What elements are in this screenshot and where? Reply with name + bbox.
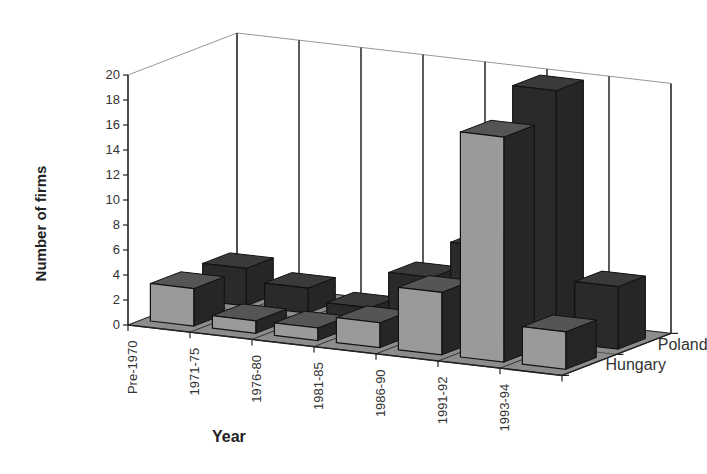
legend-hungary: Hungary xyxy=(605,356,665,373)
y-tick-label: 20 xyxy=(106,67,120,82)
x-tick-label: 1993-94 xyxy=(497,384,512,432)
x-tick-label: 1986-90 xyxy=(373,369,388,417)
y-axis-label: Number of firms xyxy=(32,124,49,324)
y-tick-label: 10 xyxy=(106,192,120,207)
bar-poland-1 xyxy=(265,273,336,314)
chart-canvas: 02468101214161820Pre-19701971-751976-801… xyxy=(0,0,707,474)
y-tick-label: 18 xyxy=(106,92,120,107)
y-tick-label: 14 xyxy=(106,142,120,157)
x-tick-label: 1971-75 xyxy=(187,348,202,396)
x-tick-label: 1976-80 xyxy=(249,355,264,403)
y-tick-label: 6 xyxy=(113,242,120,257)
x-axis-label: Year xyxy=(212,428,246,446)
x-tick-label: 1991-92 xyxy=(435,377,450,425)
y-axis: 02468101214161820 xyxy=(106,67,128,332)
y-tick-label: 0 xyxy=(113,317,120,332)
y-tick-label: 12 xyxy=(106,167,120,182)
y-tick-label: 4 xyxy=(113,267,120,282)
y-tick-label: 16 xyxy=(106,117,120,132)
legend-poland: Poland xyxy=(658,336,707,353)
bar-hungary-6 xyxy=(522,315,596,369)
y-tick-label: 2 xyxy=(113,292,120,307)
x-tick-label: Pre-1970 xyxy=(125,341,140,394)
y-tick-label: 8 xyxy=(113,217,120,232)
x-tick-label: 1981-85 xyxy=(311,362,326,410)
bar-hungary-5 xyxy=(460,120,534,362)
